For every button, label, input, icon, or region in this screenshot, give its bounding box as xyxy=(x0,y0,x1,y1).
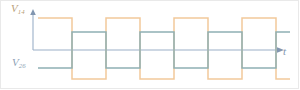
signal-label-v14-subscript: 14 xyxy=(18,8,25,15)
waveform-trace-v14 xyxy=(38,18,290,79)
signal-label-v14: V14 xyxy=(11,3,25,14)
waveform-plot xyxy=(0,0,300,90)
signal-label-v26: V26 xyxy=(12,57,26,68)
signal-label-v14-text: V xyxy=(11,2,18,14)
time-axis-label: t xyxy=(283,46,286,57)
time-axis xyxy=(33,47,284,53)
signal-label-v26-text: V xyxy=(12,56,19,68)
waveform-figure: V14 V26 t xyxy=(0,0,300,90)
vertical-axis-arrow-icon xyxy=(30,9,36,15)
vertical-axis xyxy=(30,9,36,50)
signal-label-v26-subscript: 26 xyxy=(19,62,26,69)
